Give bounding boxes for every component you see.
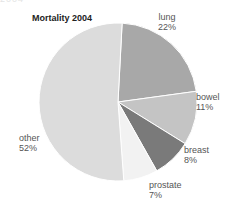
label-prostate-value: 7% [149,190,182,200]
label-prostate: prostate 7% [149,180,182,200]
pie-slice-other [39,23,124,181]
label-bowel-value: 11% [196,102,220,112]
label-bowel: bowel 11% [196,92,220,112]
pie-slice-lung [118,23,196,102]
label-lung-name: lung [158,12,176,22]
label-breast: breast 8% [184,145,209,165]
label-other: other 52% [19,133,40,153]
label-other-name: other [19,133,40,143]
label-bowel-name: bowel [196,92,220,102]
label-prostate-name: prostate [149,180,182,190]
label-lung-value: 22% [158,22,176,32]
label-lung: lung 22% [158,12,176,32]
label-other-value: 52% [19,143,40,153]
label-breast-name: breast [184,145,209,155]
label-breast-value: 8% [184,155,209,165]
